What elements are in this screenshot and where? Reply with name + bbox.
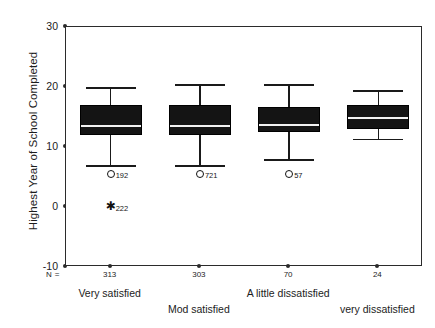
x-tick-mark (108, 264, 112, 268)
x-tick-mark (375, 264, 379, 268)
plot-area: 192✱22272157 (65, 26, 422, 266)
median-line (348, 117, 408, 119)
x-group-count: 303 (192, 270, 205, 279)
upper-whisker-cap (353, 90, 403, 92)
x-group-count: 24 (373, 270, 382, 279)
x-tick-mark (286, 264, 290, 268)
upper-whisker (378, 90, 380, 105)
n-row-label: N = (46, 270, 60, 279)
y-tick-label: 0 (0, 200, 65, 212)
lower-whisker-cap (353, 139, 403, 141)
box-plot-group (66, 27, 423, 265)
x-category-label: Very satisfied (78, 287, 140, 299)
x-group-count: 313 (103, 270, 116, 279)
x-group-count: 70 (284, 270, 293, 279)
x-category-label: Mod satisfied (168, 303, 230, 315)
y-tick-label: 30 (0, 20, 65, 32)
y-tick-label: 10 (0, 140, 65, 152)
x-category-label: A little dissatisfied (247, 287, 330, 299)
boxplot-figure: Highest Year of School Completed 3020100… (0, 0, 435, 328)
lower-whisker (378, 129, 380, 139)
x-tick-mark (197, 264, 201, 268)
y-tick-label: 20 (0, 80, 65, 92)
x-category-label: very dissatisfied (340, 303, 415, 315)
